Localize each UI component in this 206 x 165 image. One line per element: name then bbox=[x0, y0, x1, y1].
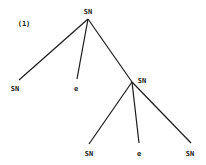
node-bottom-left: SN bbox=[85, 150, 93, 158]
edge-inner-left bbox=[89, 82, 132, 144]
tree-edges bbox=[0, 0, 206, 165]
node-empty: e bbox=[74, 85, 78, 93]
edge-inner-middle bbox=[132, 82, 139, 143]
node-root: SN bbox=[84, 8, 92, 16]
node-inner: SN bbox=[138, 77, 146, 85]
edge-root-right bbox=[88, 19, 132, 82]
node-left: SN bbox=[11, 85, 19, 93]
edge-root-left bbox=[19, 19, 88, 80]
node-bottom-empty: e bbox=[137, 150, 141, 158]
node-bottom-right: SN bbox=[186, 150, 194, 158]
edge-inner-right bbox=[132, 82, 191, 143]
example-number: (1) bbox=[18, 20, 31, 28]
